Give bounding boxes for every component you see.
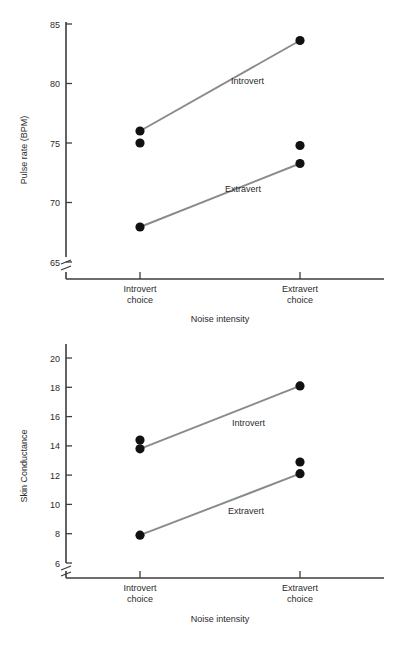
y-tick-label-10: 10 bbox=[50, 500, 60, 510]
y-tick-label-75: 75 bbox=[50, 139, 60, 149]
series-line-introvert bbox=[140, 386, 300, 449]
y-tick-label-14: 14 bbox=[50, 441, 60, 451]
y-axis-break-mark-lower bbox=[61, 266, 71, 270]
x-category-label-2-line1: Extravert bbox=[282, 583, 319, 593]
y-tick-label-6: 6 bbox=[55, 559, 60, 569]
y-tick-label-80: 80 bbox=[50, 79, 60, 89]
data-point-extravert-right bbox=[295, 159, 304, 168]
x-axis-title: Noise intensity bbox=[191, 614, 250, 624]
data-point-extra-right-upper bbox=[295, 141, 304, 150]
x-category-label-1-line2: choice bbox=[127, 295, 153, 305]
data-point-introvert-right bbox=[295, 36, 304, 45]
skin-conductance-chart: 20 18 16 14 12 10 8 6 Skin Conductance I… bbox=[0, 326, 396, 652]
skin-conductance-chart-panel: 20 18 16 14 12 10 8 6 Skin Conductance I… bbox=[0, 326, 396, 652]
data-point-extravert-right bbox=[295, 469, 304, 478]
data-point-extra-left-upper bbox=[135, 138, 144, 147]
y-tick-label-12: 12 bbox=[50, 471, 60, 481]
y-axis-title: Pulse rate (BPM) bbox=[19, 116, 29, 185]
series-annotation-extravert: Extravert bbox=[225, 184, 262, 194]
x-category-label-1-line2: choice bbox=[127, 594, 153, 604]
series-line-extravert bbox=[140, 164, 300, 228]
x-category-label-2-line2: choice bbox=[287, 594, 313, 604]
x-axis-title: Noise intensity bbox=[191, 314, 250, 324]
x-category-label-2-line1: Extravert bbox=[282, 284, 319, 294]
data-point-extra-right-upper bbox=[295, 457, 304, 466]
y-tick-label-70: 70 bbox=[50, 198, 60, 208]
data-point-introvert-left bbox=[135, 444, 144, 453]
y-tick-label-65: 65 bbox=[50, 258, 60, 268]
data-point-introvert-left bbox=[135, 126, 144, 135]
y-tick-label-8: 8 bbox=[55, 529, 60, 539]
series-annotation-introvert: Introvert bbox=[232, 418, 266, 428]
y-axis-title: Skin Conductance bbox=[19, 429, 29, 502]
data-point-extra-left-upper bbox=[135, 435, 144, 444]
y-tick-label-20: 20 bbox=[50, 354, 60, 364]
pulse-rate-chart-panel: 85 80 75 70 65 Pulse rate (BPM) Introver… bbox=[0, 0, 396, 326]
data-point-introvert-right bbox=[295, 381, 304, 390]
series-line-introvert bbox=[140, 41, 300, 132]
x-category-label-2-line2: choice bbox=[287, 295, 313, 305]
series-line-extravert bbox=[140, 474, 300, 536]
series-annotation-extravert: Extravert bbox=[228, 506, 265, 516]
y-axis-break-mark-upper bbox=[61, 566, 71, 570]
y-tick-label-16: 16 bbox=[50, 412, 60, 422]
y-tick-label-85: 85 bbox=[50, 20, 60, 30]
x-category-label-1-line1: Introvert bbox=[123, 284, 157, 294]
y-tick-label-18: 18 bbox=[50, 383, 60, 393]
data-point-extravert-left bbox=[135, 222, 144, 231]
x-category-label-1-line1: Introvert bbox=[123, 583, 157, 593]
pulse-rate-chart: 85 80 75 70 65 Pulse rate (BPM) Introver… bbox=[0, 0, 396, 326]
series-annotation-introvert: Introvert bbox=[231, 76, 265, 86]
data-point-extravert-left bbox=[135, 531, 144, 540]
